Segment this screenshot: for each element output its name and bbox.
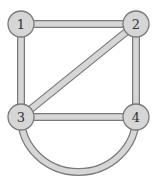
node-1-label: 1 (17, 17, 25, 32)
node-4: 4 (123, 104, 149, 130)
graph-diagram: 1 2 3 4 (0, 0, 159, 182)
edge-3-4-arc-outline (21, 117, 136, 172)
edges-outline (21, 24, 136, 172)
node-4-label: 4 (132, 110, 140, 125)
node-2-label: 2 (132, 17, 140, 32)
node-1: 1 (8, 11, 34, 37)
edge-3-4-arc (21, 117, 136, 172)
node-2: 2 (123, 11, 149, 37)
node-3: 3 (8, 104, 34, 130)
node-3-label: 3 (17, 110, 25, 125)
edge-2-3 (21, 24, 136, 117)
